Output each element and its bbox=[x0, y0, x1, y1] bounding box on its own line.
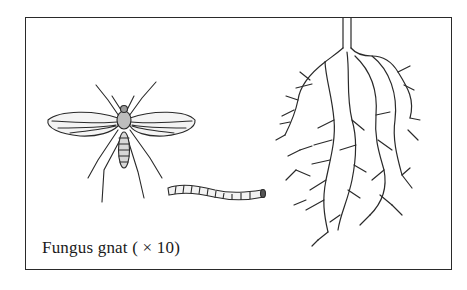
figure-caption: Fungus gnat ( × 10) bbox=[42, 238, 180, 258]
larva-illustration bbox=[168, 185, 266, 200]
roots-illustration bbox=[276, 18, 420, 246]
gnat-illustration bbox=[48, 82, 195, 202]
